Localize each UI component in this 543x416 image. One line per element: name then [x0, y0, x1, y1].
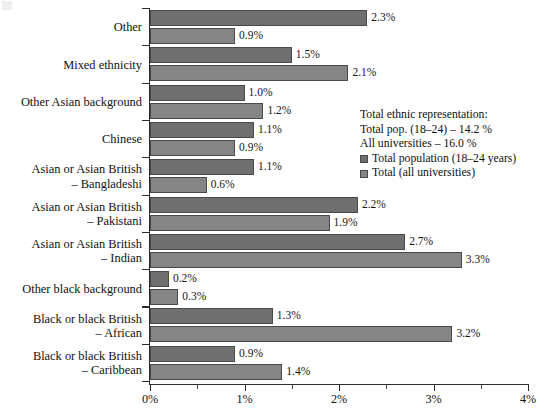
legend-note-total-ethnic-representation: Total ethnic representation:: [360, 108, 540, 123]
bar-value-label: 2.3%: [371, 12, 395, 24]
y-axis-category-line: Other black background: [10, 282, 142, 296]
y-axis-category-label: Chinese: [10, 132, 150, 146]
bar: [150, 140, 235, 156]
plot-area: 2.3%0.9%1.5%2.1%1.0%1.2%1.1%0.9%1.1%0.6%…: [150, 10, 528, 383]
bar-value-label: 3.2%: [456, 328, 480, 340]
y-axis-category-label: Asian or Asian British– Indian: [10, 237, 150, 266]
bar-value-label: 2.7%: [409, 236, 433, 248]
bar-value-label: 0.9%: [239, 30, 263, 42]
y-axis-category-line: – Indian: [10, 251, 142, 265]
x-axis-tick: [434, 385, 435, 391]
x-axis-minor-tick: [197, 385, 198, 389]
bar: [150, 289, 178, 305]
bar-value-label: 3.3%: [466, 254, 490, 266]
y-axis-category-label: Black or black British– Caribbean: [10, 349, 150, 378]
bar: [150, 271, 169, 287]
x-axis-tick-label: 1%: [236, 393, 252, 406]
y-axis-category-line: – Pakistani: [10, 214, 142, 228]
y-axis-category-line: Black or black British: [10, 349, 142, 363]
bar-value-label: 1.9%: [334, 217, 358, 229]
bar-value-label: 0.3%: [182, 291, 206, 303]
bar-group: 1.5%2.1%: [150, 47, 528, 84]
bar-value-label: 1.2%: [267, 105, 291, 117]
bar: [150, 215, 330, 231]
x-axis-tick-label: 3%: [425, 393, 441, 406]
y-axis-category-line: – Caribbean: [10, 363, 142, 377]
legend-entry-label-series-1: Total (all universities): [372, 166, 475, 181]
bar: [150, 252, 462, 268]
bar-group: 2.7%3.3%: [150, 234, 528, 271]
x-axis-minor-tick: [292, 385, 293, 389]
y-axis-category-label: Asian or Asian British– Pakistani: [10, 200, 150, 229]
bar-value-label: 1.1%: [258, 124, 282, 136]
bar: [150, 28, 235, 44]
bar-value-label: 1.3%: [277, 310, 301, 322]
bar-group: 1.3%3.2%: [150, 308, 528, 345]
legend-entry-all-universities: Total (all universities): [360, 166, 540, 181]
legend-entry-total-population: Total population (18–24 years): [360, 152, 540, 167]
x-axis-tick: [245, 385, 246, 391]
bar: [150, 197, 358, 213]
y-axis-category-line: – African: [10, 326, 142, 340]
y-axis-category-label: Mixed ethnicity: [10, 58, 150, 72]
y-axis-category-label: Other Asian background: [10, 95, 150, 109]
bar-value-label: 1.5%: [296, 49, 320, 61]
y-axis-category-label: Asian or Asian British– Bangladeshi: [10, 162, 150, 191]
bar-group: 2.3%0.9%: [150, 10, 528, 47]
x-axis-tick: [528, 385, 529, 391]
x-axis-tick-label: 0%: [142, 393, 158, 406]
x-axis-tick-label: 2%: [331, 393, 347, 406]
bar: [150, 234, 405, 250]
y-axis-category-label: Other: [10, 20, 150, 34]
bar-chart: 2.3%0.9%1.5%2.1%1.0%1.2%1.1%0.9%1.1%0.6%…: [0, 0, 543, 416]
bar-value-label: 0.6%: [211, 179, 235, 191]
bar: [150, 177, 207, 193]
bar: [150, 346, 235, 362]
y-axis-category-line: Asian or Asian British: [10, 237, 142, 251]
bar-value-label: 1.1%: [258, 161, 282, 173]
x-axis-tick-label: 4%: [520, 393, 536, 406]
bar-value-label: 0.9%: [239, 142, 263, 154]
bar: [150, 364, 282, 380]
y-axis-category-line: Mixed ethnicity: [10, 58, 142, 72]
bar-value-label: 2.1%: [352, 67, 376, 79]
legend-entry-label-series-0: Total population (18–24 years): [372, 152, 516, 167]
x-axis-minor-tick: [386, 385, 387, 389]
bar: [150, 308, 273, 324]
bar-value-label: 0.9%: [239, 348, 263, 360]
y-axis-category-line: Other Asian background: [10, 95, 142, 109]
scan-artifact: [2, 1, 12, 10]
y-axis-category-label: Other black background: [10, 282, 150, 296]
bar: [150, 326, 452, 342]
bar-value-label: 2.2%: [362, 199, 386, 211]
bar: [150, 122, 254, 138]
y-axis-line: [149, 8, 150, 385]
y-axis-category-line: Black or black British: [10, 312, 142, 326]
bar-value-label: 0.2%: [173, 273, 197, 285]
y-axis-category-line: – Bangladeshi: [10, 177, 142, 191]
bar: [150, 159, 254, 175]
legend-block: Total ethnic representation: Total pop. …: [360, 108, 540, 181]
bar: [150, 10, 367, 26]
x-axis-minor-tick: [481, 385, 482, 389]
legend-swatch-icon-series-1: [360, 170, 368, 178]
legend-note-total-population: Total pop. (18–24) – 14.2 %: [360, 123, 540, 138]
x-axis-tick: [339, 385, 340, 391]
y-axis-category-line: Other: [10, 20, 142, 34]
legend-note-all-universities: All universities – 16.0 %: [360, 137, 540, 152]
bar-group: 2.2%1.9%: [150, 197, 528, 234]
bar: [150, 85, 245, 101]
bar-value-label: 1.0%: [249, 87, 273, 99]
y-axis-category-line: Asian or Asian British: [10, 200, 142, 214]
x-axis-tick: [150, 385, 151, 391]
bar: [150, 103, 263, 119]
bar-group: 0.2%0.3%: [150, 271, 528, 308]
y-axis-category-label: Black or black British– African: [10, 312, 150, 341]
bar-value-label: 1.4%: [286, 366, 310, 378]
y-axis-category-line: Asian or Asian British: [10, 162, 142, 176]
legend-swatch-icon-series-0: [360, 155, 368, 163]
bar: [150, 47, 292, 63]
y-axis-category-line: Chinese: [10, 132, 142, 146]
bar-group: 0.9%1.4%: [150, 346, 528, 383]
bar: [150, 65, 348, 81]
